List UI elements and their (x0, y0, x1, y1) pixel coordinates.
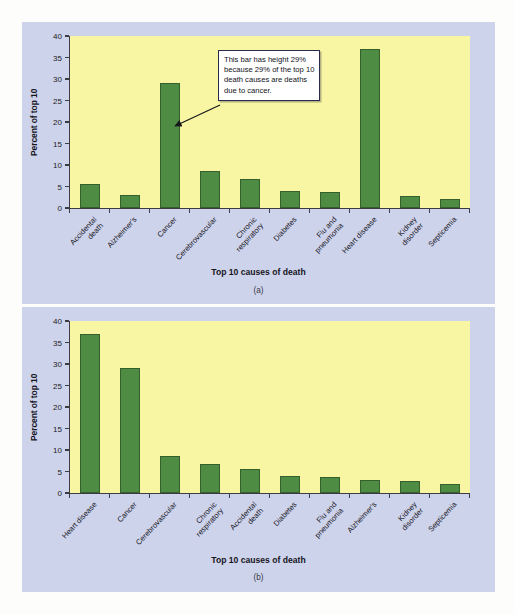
x-tick-mark (349, 493, 350, 498)
x-tick-mark (69, 208, 70, 213)
bar (160, 83, 181, 208)
x-tick-label: Chronicrespiratory (188, 500, 226, 539)
bar (80, 184, 101, 208)
x-tick-label: Kidneydisorder (393, 215, 425, 247)
y-tick-mark (65, 186, 69, 187)
x-tick-mark (109, 493, 110, 498)
y-tick-mark (65, 78, 69, 79)
bar (400, 196, 421, 208)
bar (160, 456, 181, 493)
x-tick-mark (309, 493, 310, 498)
y-tick-label: 20 (40, 118, 62, 127)
y-tick-mark (65, 342, 69, 343)
x-tick-mark (69, 493, 70, 498)
annotation-line-2: because 29% of the top 10 (224, 65, 314, 75)
plot-area-b (69, 321, 470, 494)
figure-page: Percent of top 10 0510152025303540 Accid… (0, 0, 515, 614)
y-tick-mark (65, 449, 69, 450)
x-tick-mark (389, 493, 390, 498)
x-tick-label-line: Cerebrovascular (134, 500, 179, 547)
y-tick-label: 30 (40, 360, 62, 369)
y-tick-label: 40 (40, 32, 62, 41)
x-tick-label-line: Septicemia (426, 215, 458, 249)
annotation-line-1: This bar has height 29% (224, 55, 314, 65)
y-tick-mark (65, 428, 69, 429)
bar (120, 368, 141, 493)
y-tick-mark (65, 143, 69, 144)
y-tick-label: 5 (40, 467, 62, 476)
y-tick-label: 0 (40, 204, 62, 213)
x-tick-mark (229, 493, 230, 498)
y-tick-label: 0 (40, 489, 62, 498)
x-tick-mark (149, 493, 150, 498)
x-tick-label-line: Diabetes (272, 500, 299, 528)
y-tick-mark (65, 406, 69, 407)
x-tick-mark (469, 208, 470, 213)
x-axis-title-b: Top 10 causes of death (22, 555, 495, 565)
x-tick-label: Cancer (155, 215, 178, 239)
x-tick-mark (229, 208, 230, 213)
bar (280, 191, 301, 208)
bar (200, 464, 221, 493)
x-tick-mark (429, 208, 430, 213)
x-tick-mark (349, 208, 350, 213)
chart-a: Percent of top 10 0510152025303540 Accid… (22, 22, 495, 304)
x-tick-mark (269, 208, 270, 213)
x-tick-label: Heart disease (60, 500, 99, 540)
y-tick-mark (65, 385, 69, 386)
y-tick-mark (65, 320, 69, 321)
x-tick-label: Diabetes (272, 215, 299, 243)
panel-caption-b: (b) (22, 573, 495, 582)
y-tick-label: 15 (40, 424, 62, 433)
x-tick-label: Diabetes (272, 500, 299, 528)
y-tick-label: 30 (40, 75, 62, 84)
x-tick-label: Cancer (115, 500, 138, 524)
bar (320, 477, 341, 493)
bar (240, 469, 261, 493)
x-tick-label: Chronicrespiratory (228, 215, 266, 254)
y-tick-mark (65, 363, 69, 364)
chart-b: Percent of top 10 0510152025303540 Heart… (22, 307, 495, 592)
x-tick-label: Accidentaldeath (228, 500, 265, 538)
bar (440, 484, 461, 493)
bar (200, 171, 221, 208)
x-tick-label: Septicemia (426, 500, 458, 534)
y-tick-label: 25 (40, 381, 62, 390)
x-tick-mark (469, 493, 470, 498)
bar (360, 49, 381, 208)
x-tick-label-line: Diabetes (272, 215, 299, 243)
x-tick-label: Accidentaldeath (68, 215, 105, 253)
bar (400, 481, 421, 493)
x-tick-label-line: Heart disease (60, 500, 99, 540)
x-tick-mark (309, 208, 310, 213)
annotation-line-4: due to cancer. (224, 86, 314, 96)
y-tick-label: 10 (40, 161, 62, 170)
bar (80, 334, 101, 493)
x-tick-label: Alzheimer's (105, 215, 138, 250)
bar (240, 179, 261, 208)
x-tick-label: Heart disease (340, 215, 379, 255)
y-tick-label: 10 (40, 446, 62, 455)
x-tick-label: Alzheimer's (345, 500, 378, 535)
x-tick-mark (149, 208, 150, 213)
x-tick-mark (389, 208, 390, 213)
y-tick-label: 35 (40, 338, 62, 347)
bar (320, 192, 341, 208)
bar (120, 195, 141, 208)
x-tick-mark (189, 208, 190, 213)
x-tick-label-line: Alzheimer's (345, 500, 378, 535)
y-tick-label: 40 (40, 317, 62, 326)
annotation-line-3: death causes are deaths (224, 75, 314, 85)
chart-panel-a: Percent of top 10 0510152025303540 Accid… (22, 22, 495, 304)
annotation-callout: This bar has height 29% because 29% of t… (218, 50, 320, 101)
y-tick-mark (65, 121, 69, 122)
bar (440, 199, 461, 208)
y-tick-label: 35 (40, 53, 62, 62)
x-axis-title-a: Top 10 causes of death (22, 267, 495, 277)
bar (280, 476, 301, 493)
y-tick-mark (65, 164, 69, 165)
y-tick-mark (65, 35, 69, 36)
x-tick-mark (269, 493, 270, 498)
y-tick-mark (65, 100, 69, 101)
x-tick-mark (189, 493, 190, 498)
